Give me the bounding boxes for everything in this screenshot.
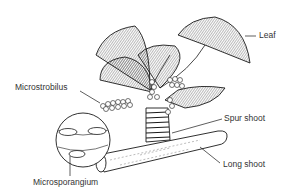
label-spur-shoot: Spur shoot: [224, 114, 265, 123]
label-long-shoot: Long shoot: [223, 160, 265, 169]
label-microsporangium: Microsporangium: [33, 178, 98, 187]
ginkgo-diagram: Leaf Microstrobilus Spur shoot Long shoo…: [0, 0, 300, 193]
leaves: [96, 17, 250, 108]
label-microstrobilus: Microstrobilus: [15, 83, 67, 92]
microsporangium-inset: [56, 113, 110, 167]
label-leaf: Leaf: [259, 31, 276, 40]
